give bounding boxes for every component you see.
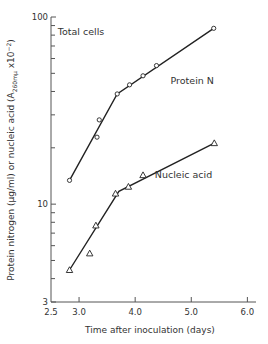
data-point-protein-n [154,63,158,67]
x-tick-label: 4.0 [128,307,142,317]
y-axis-title-tail: x10 [6,51,16,71]
y-axis-title-close: ) [6,39,16,43]
fit-lines [70,28,215,270]
data-point-protein-n [127,83,131,87]
x-tick-label: 2.5 [44,307,58,317]
data-point-protein-n [115,92,119,96]
y-axis-title-sup: −2 [5,42,12,51]
annotation-nucleic-acid: Nucleic acid [155,169,212,180]
data-point-nucleic-acid [87,250,93,256]
y-axis-title-sub: 260mμ [11,71,19,92]
data-point-nucleic-acid [211,140,217,146]
fit-line-protein-n [70,28,214,180]
data-point-protein-n [95,135,99,139]
x-axis-title: Time after inoculation (days) [84,325,215,335]
y-axis-title: Protein nitrogen (μg/ml) or nucleic acid… [5,39,19,281]
data-point-nucleic-acid [140,172,146,178]
x-tick-label: 3.0 [72,307,86,317]
y-axis-title-main: Protein nitrogen (μg/ml) or nucleic acid… [6,91,16,280]
x-tick-label: 6.0 [241,307,255,317]
y-tick-label: 3 [43,297,48,307]
fit-line-nucleic-acid [70,143,215,270]
data-point-nucleic-acid [125,183,131,189]
data-point-protein-n [141,74,145,78]
annotation-total-cells: Total cells [57,26,105,37]
labels: Total cellsProtein NNucleic acid [57,26,214,180]
x-tick-label: 5.0 [185,307,199,317]
data-point-protein-n [97,118,101,122]
data-markers [66,26,217,272]
data-point-protein-n [212,26,216,30]
chart: 2.53.04.05.06.0310100 Total cellsProtein… [0,0,268,344]
annotation-protein-n: Protein N [171,75,214,86]
y-tick-label: 100 [32,12,48,22]
y-tick-label: 10 [37,199,48,209]
data-point-protein-n [67,178,71,182]
ticks: 2.53.04.05.06.0310100 [32,12,254,317]
